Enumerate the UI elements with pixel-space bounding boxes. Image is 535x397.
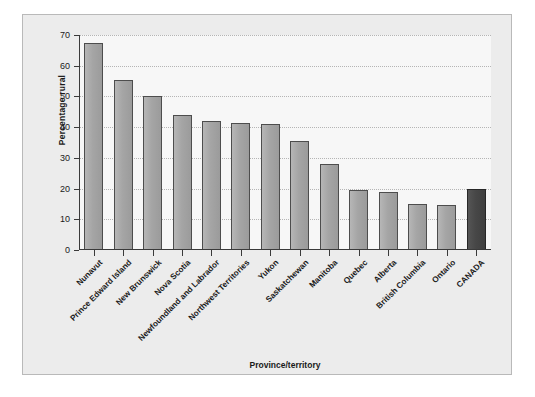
- bar: [320, 164, 339, 250]
- x-tick-label: Alberta: [372, 258, 398, 284]
- x-tick-mark: [153, 250, 154, 256]
- y-tick-label: 20: [60, 184, 79, 194]
- x-tick-label: Ontario: [430, 258, 457, 285]
- x-tick-mark: [417, 250, 418, 256]
- x-tick-label: Manitoba: [308, 258, 340, 290]
- y-axis-title: Percentage rural: [57, 55, 67, 165]
- y-tick-label: 70: [60, 30, 79, 40]
- bar: [84, 43, 103, 250]
- bar: [261, 124, 280, 250]
- bar-series: [79, 35, 491, 250]
- bar: [173, 115, 192, 250]
- y-tick-label: 50: [60, 91, 79, 101]
- x-tick-label: CANADA: [455, 258, 486, 289]
- chart-screenshot: Percentage rural 010203040506070 Nunavut…: [0, 0, 535, 397]
- x-tick-mark: [447, 250, 448, 256]
- x-tick-label: Quebec: [341, 258, 369, 286]
- x-tick-mark: [241, 250, 242, 256]
- x-tick-mark: [359, 250, 360, 256]
- y-tick-label: 10: [60, 214, 79, 224]
- x-axis-ticks: [79, 250, 491, 256]
- bar: [231, 123, 250, 250]
- plot-area: 010203040506070: [79, 35, 491, 250]
- x-tick-mark: [182, 250, 183, 256]
- x-tick-mark: [123, 250, 124, 256]
- x-tick-mark: [94, 250, 95, 256]
- y-tick-label: 60: [60, 61, 79, 71]
- figure-panel: Percentage rural 010203040506070 Nunavut…: [22, 14, 512, 375]
- bar: [143, 96, 162, 250]
- x-tick-mark: [211, 250, 212, 256]
- bar: [379, 192, 398, 250]
- x-tick-mark: [270, 250, 271, 256]
- y-tick-label: 0: [65, 245, 79, 255]
- bar: [114, 80, 133, 250]
- bar: [467, 189, 486, 250]
- x-tick-mark: [300, 250, 301, 256]
- bar: [290, 141, 309, 250]
- y-tick-label: 30: [60, 153, 79, 163]
- x-axis-category-labels: NunavutPrince Edward IslandNew Brunswick…: [79, 258, 491, 353]
- x-tick-label: Nunavut: [75, 258, 105, 288]
- x-tick-mark: [476, 250, 477, 256]
- bar: [408, 204, 427, 250]
- x-tick-mark: [388, 250, 389, 256]
- bar: [349, 190, 368, 250]
- x-axis-title: Province/territory: [79, 360, 491, 370]
- x-tick-label: Northwest Territories: [187, 258, 251, 322]
- x-tick-label: Yukon: [257, 258, 281, 282]
- bar: [202, 121, 221, 250]
- x-tick-mark: [329, 250, 330, 256]
- bar: [437, 205, 456, 250]
- y-tick-label: 40: [60, 122, 79, 132]
